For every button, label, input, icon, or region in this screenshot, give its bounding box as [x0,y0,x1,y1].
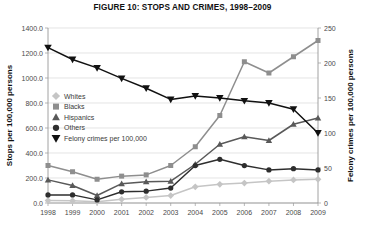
x-axis-tick-label: 2008 [286,209,302,216]
y2-axis-tick-label: 0 [324,200,328,207]
data-point-marker [45,177,52,183]
y-axis-tick-label: 200.0 [25,175,43,182]
data-point-marker [266,71,271,76]
data-point-marker [143,194,150,201]
series-felony-crimes-per-100-000 [44,45,322,137]
chart-legend: WhitesBlacksHispanicsOthersFelony crimes… [52,92,147,143]
y-axis-tick-label: 0.0 [33,200,43,207]
x-axis-ticks: 1998199920002001200220032004200520062007… [40,203,326,216]
y-axis-title: Stops per 100,000 persons [5,64,14,166]
data-point-marker [314,130,322,137]
data-point-marker [291,166,296,171]
data-point-marker [44,45,52,52]
y-axis-left-ticks: 0.0200.0400.0600.0800.01000.01200.01400.… [22,25,48,207]
data-point-marker [290,177,297,184]
data-point-marker [95,177,100,182]
legend-label: Felony crimes per 100,000 [64,135,147,143]
data-point-marker [52,135,61,143]
legend-label: Others [64,124,86,131]
data-point-marker [46,163,51,168]
series-blacks [46,38,321,182]
data-point-marker [242,59,247,64]
legend-item-whites[interactable]: Whites [52,92,86,100]
data-point-marker [52,113,60,120]
legend-item-blacks[interactable]: Blacks [53,103,85,110]
data-point-marker [315,115,322,121]
x-axis-tick-label: 2001 [114,209,130,216]
data-point-marker [315,167,320,172]
data-point-marker [168,185,173,190]
legend-item-hispanics[interactable]: Hispanics [52,113,95,122]
legend-label: Hispanics [64,114,95,122]
y2-axis-title: Felony crimes per 100,000 persons [346,48,355,182]
y2-axis-tick-label: 50 [324,165,332,172]
data-point-marker [266,167,271,172]
y2-axis-tick-label: 200 [324,60,336,67]
data-point-marker [168,163,173,168]
legend-item-felony-crimes-per-100-000[interactable]: Felony crimes per 100,000 [52,135,147,143]
data-point-marker [217,113,222,118]
y-axis-tick-label: 800.0 [25,100,43,107]
y2-axis-tick-label: 100 [324,130,336,137]
x-axis-tick-label: 2009 [310,209,326,216]
data-point-marker [291,54,296,59]
data-point-marker [242,163,247,168]
data-point-marker [53,125,59,131]
y-axis-tick-label: 1000.0 [22,75,44,82]
data-point-marker [53,104,59,110]
y2-axis-tick-label: 250 [324,25,336,32]
data-point-marker [315,176,322,183]
data-point-marker [241,180,248,187]
data-point-marker [70,169,75,174]
data-point-marker [167,97,175,104]
data-point-marker [119,189,124,194]
data-point-marker [118,196,125,203]
x-axis-tick-label: 2006 [237,209,253,216]
x-axis-tick-label: 2002 [138,209,154,216]
data-point-marker [216,181,223,188]
data-point-marker [193,163,198,168]
data-point-marker [52,92,60,100]
data-series-group [44,38,322,205]
x-axis-tick-label: 1998 [40,209,56,216]
data-point-marker [167,192,174,199]
axis-titles: Stops per 100,000 personsFelony crimes p… [5,48,355,182]
x-axis-tick-label: 1999 [65,209,81,216]
data-point-marker [119,174,124,179]
data-point-marker [266,178,273,185]
legend-item-others[interactable]: Others [53,124,86,131]
data-point-marker [144,189,149,194]
data-point-marker [70,192,75,197]
data-point-marker [144,172,149,177]
data-point-marker [217,157,222,162]
x-axis-tick-label: 2003 [163,209,179,216]
data-point-marker [192,183,199,190]
y-axis-tick-label: 1400.0 [22,25,44,32]
figure-container: FIGURE 10: STOPS AND CRIMES, 1998–2009 0… [0,0,365,237]
legend-label: Blacks [64,103,85,110]
y-axis-tick-label: 400.0 [25,150,43,157]
x-axis-tick-label: 2005 [212,209,228,216]
data-point-marker [94,197,99,202]
y-axis-tick-label: 600.0 [25,125,43,132]
y2-axis-tick-label: 150 [324,95,336,102]
chart-plot: 0.0200.0400.0600.0800.01000.01200.01400.… [0,0,365,237]
y-axis-tick-label: 1200.0 [22,50,44,57]
x-axis-tick-label: 2000 [89,209,105,216]
data-point-marker [316,38,321,43]
legend-label: Whites [64,93,86,100]
x-axis-tick-label: 2004 [187,209,203,216]
data-point-marker [193,144,198,149]
series-others [45,157,320,203]
x-axis-tick-label: 2007 [261,209,277,216]
data-point-marker [45,192,50,197]
